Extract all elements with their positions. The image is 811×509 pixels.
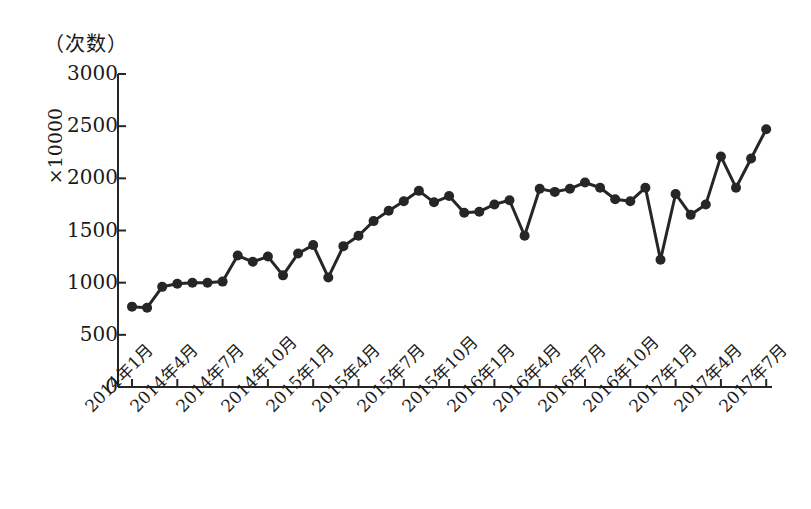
data-point-marker	[187, 278, 197, 288]
x-axis-ticks	[132, 379, 766, 387]
data-point-marker	[595, 183, 605, 193]
line-chart-figure: （次数） ×10000 300025002000150010005000 201…	[0, 0, 811, 509]
data-point-marker	[414, 186, 424, 196]
data-point-marker	[535, 184, 545, 194]
data-point-marker	[625, 196, 635, 206]
data-point-marker	[384, 206, 394, 216]
data-point-marker	[278, 270, 288, 280]
data-point-marker	[354, 231, 364, 241]
data-point-marker	[686, 210, 696, 220]
data-point-marker	[172, 279, 182, 289]
data-point-marker	[323, 272, 333, 282]
data-point-marker	[656, 255, 666, 265]
data-point-marker	[550, 187, 560, 197]
data-point-marker	[263, 252, 273, 262]
data-point-marker	[308, 240, 318, 250]
data-point-marker	[338, 241, 348, 251]
data-point-marker	[444, 191, 454, 201]
data-point-marker	[474, 207, 484, 217]
data-point-marker	[580, 178, 590, 188]
data-point-marker	[369, 216, 379, 226]
data-point-marker	[731, 183, 741, 193]
data-point-marker	[565, 184, 575, 194]
data-point-marker	[716, 151, 726, 161]
data-point-marker	[203, 278, 213, 288]
data-point-marker	[746, 154, 756, 164]
data-point-marker	[142, 303, 152, 313]
data-point-marker	[399, 196, 409, 206]
plot-area	[0, 0, 811, 509]
data-point-marker	[233, 251, 243, 261]
axes	[118, 74, 772, 387]
data-point-marker	[671, 189, 681, 199]
y-axis-ticks	[118, 74, 126, 387]
data-series-markers	[127, 124, 771, 312]
data-point-marker	[429, 197, 439, 207]
data-point-marker	[640, 183, 650, 193]
data-point-marker	[520, 231, 530, 241]
data-point-marker	[218, 277, 228, 287]
data-point-marker	[127, 302, 137, 312]
data-point-marker	[293, 248, 303, 258]
data-point-marker	[505, 195, 515, 205]
data-point-marker	[248, 257, 258, 267]
data-point-marker	[701, 199, 711, 209]
data-point-marker	[610, 194, 620, 204]
data-point-marker	[157, 282, 167, 292]
data-point-marker	[459, 208, 469, 218]
data-point-marker	[761, 124, 771, 134]
data-point-marker	[489, 199, 499, 209]
